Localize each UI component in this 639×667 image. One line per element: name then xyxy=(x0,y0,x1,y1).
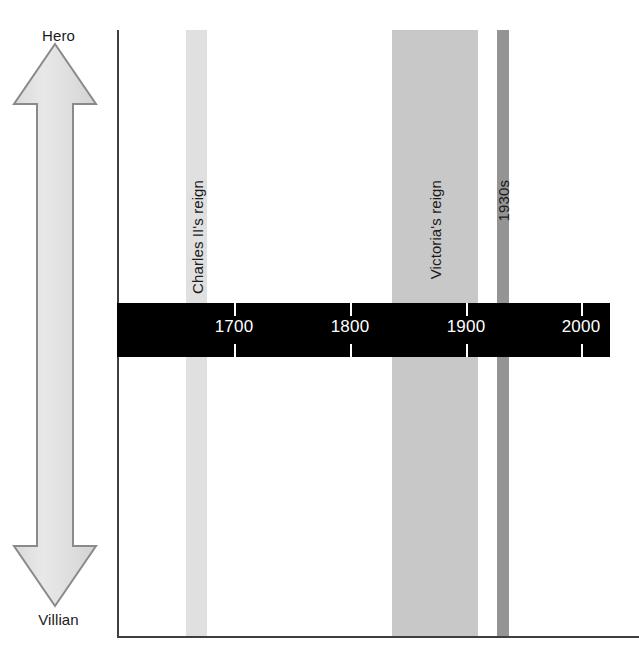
plot-frame-bottom-edge xyxy=(117,636,639,638)
y-axis-bottom-label: Villian xyxy=(0,611,117,628)
timeline-tick-lower xyxy=(466,344,468,357)
timeline-tick-lower xyxy=(581,344,583,357)
timeline-tick-label: 1900 xyxy=(447,317,486,337)
double-headed-arrow-icon xyxy=(12,42,98,608)
era-band-label: Charles II's reign xyxy=(188,180,205,294)
timeline-bar: 1700 1800 1900 2000 xyxy=(117,303,610,357)
timeline-tick-upper xyxy=(350,303,352,316)
timeline-tick-label: 1700 xyxy=(215,317,254,337)
y-axis-arrow-group: Hero Villian xyxy=(0,0,117,667)
timeline-tick-upper xyxy=(234,303,236,316)
timeline-tick-lower xyxy=(350,344,352,357)
timeline-tick-label: 2000 xyxy=(562,317,601,337)
timeline-tick-upper xyxy=(581,303,583,316)
timeline-tick-upper xyxy=(466,303,468,316)
timeline-tick-lower xyxy=(234,344,236,357)
timeline-tick-label: 1800 xyxy=(331,317,370,337)
timeline-figure: Hero Villian Charles II's reign Victoria… xyxy=(0,0,639,667)
era-band-label: 1930s xyxy=(495,180,512,221)
era-band-label: Victoria's reign xyxy=(427,180,444,279)
